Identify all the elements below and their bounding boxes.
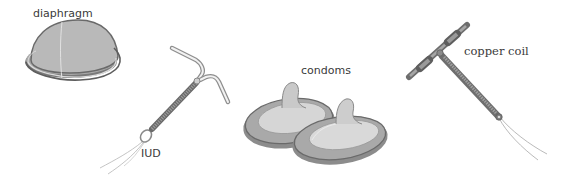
diaphragm-label: diaphragm <box>33 8 93 19</box>
iud-illustration <box>100 48 228 174</box>
diaphragm-illustration <box>25 20 120 80</box>
condoms-label: condoms <box>301 65 351 76</box>
copper-coil-label: copper coil <box>464 46 529 58</box>
contraceptive-methods-diagram: diaphragm IUD condoms copper coil <box>0 0 573 180</box>
iud-label: IUD <box>141 148 161 159</box>
condoms-illustration <box>240 83 391 171</box>
illustration-canvas <box>0 0 573 180</box>
